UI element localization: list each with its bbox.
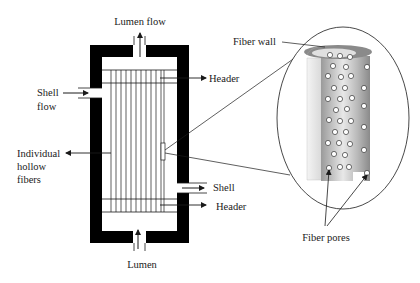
label-fiber-pores: Fiber pores	[302, 232, 350, 243]
label-header-bottom: Header	[216, 201, 247, 212]
hollow-fibers	[111, 70, 164, 212]
label-lumen-flow: Lumen flow	[114, 16, 166, 27]
label-individual-3: fibers	[17, 174, 41, 185]
label-shell-flow-2: flow	[37, 101, 57, 112]
module-shell	[90, 45, 189, 243]
label-shell-flow-1: Shell	[37, 87, 59, 98]
lumen-inlet-pipe	[134, 243, 145, 251]
fiber-detail-marker	[161, 143, 165, 160]
header-bottom	[102, 199, 177, 212]
magnified-fiber	[304, 45, 372, 181]
label-shell-out: Shell	[213, 182, 235, 193]
label-header-top: Header	[209, 73, 240, 84]
label-individual-2: hollow	[17, 161, 47, 172]
header-top	[102, 70, 177, 83]
label-lumen: Lumen	[127, 259, 157, 270]
hollow-fiber-module-diagram: Lumen flow Header Shell flow Individual …	[0, 0, 420, 283]
label-individual-1: Individual	[17, 148, 60, 159]
label-fiber-wall: Fiber wall	[233, 36, 276, 47]
